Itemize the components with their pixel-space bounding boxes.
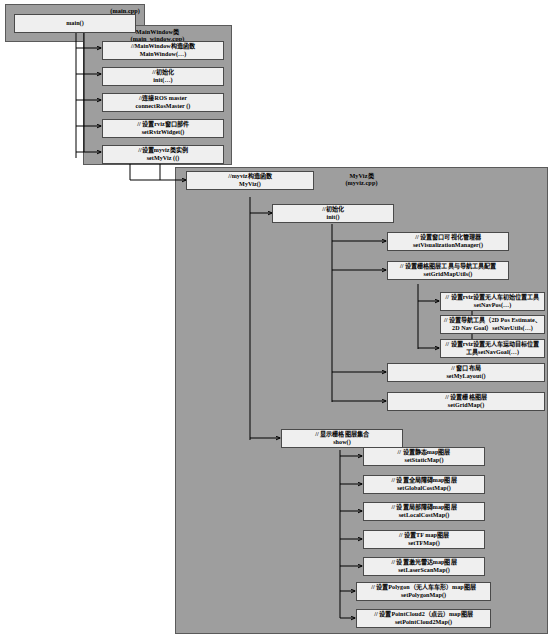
node-set-rviz-widget[interactable]: // 设置rviz窗口部件 setRvizWidget(): [102, 119, 224, 138]
node-set-nav-utils-line1: // 设置导航工具（2D Pos Estimate、: [444, 317, 541, 325]
node-set-my-layout-line2: setMyLayout(): [446, 373, 485, 381]
node-show[interactable]: // 显示栅格图层集合 show(): [281, 429, 403, 448]
node-set-rviz-widget-line1: // 设置rviz窗口部件: [137, 121, 189, 129]
node-mainwindow-init-line2: init(…): [153, 77, 172, 85]
node-set-local-cost-map[interactable]: // 设置局部障碍map图层 setLocalCostMap(): [363, 502, 485, 521]
node-set-my-layout[interactable]: // 窗口布局 setMyLayout(): [387, 363, 545, 382]
node-set-nav-utils-line2: 2D Nav Goal）setNavUtils(…): [452, 325, 533, 333]
node-myviz-init[interactable]: //初始化 init(): [272, 204, 394, 223]
node-set-gridmap-utils-line2: setGridMapUtils(): [424, 271, 473, 279]
node-set-global-cost-map-line2: setGlobalCostMap(): [397, 485, 451, 493]
node-show-line2: show(): [333, 439, 351, 447]
node-set-visualization-manager-line2: setVisualizationManager(): [413, 242, 483, 250]
node-set-nav-goal-line1: // 设置rviz设置无人车运动目标位置: [445, 341, 539, 349]
node-set-static-map-line1: // 设置静态map图层: [397, 449, 450, 457]
node-set-gridmap-line1: // 设置栅格图层: [445, 394, 486, 402]
node-set-laser-scan-map-line1: // 设置激光雷达map图层: [391, 559, 456, 567]
node-set-pointcloud2-map[interactable]: // 设置PointCloud2（点云）map图层 setPointCloud2…: [356, 609, 491, 628]
node-mainwindow-init[interactable]: //初始化 init(…): [102, 67, 224, 86]
node-set-global-cost-map-line1: // 设置全局障碍map图层: [391, 477, 456, 485]
node-set-nav-pos-line2: setNavPos(…): [474, 302, 512, 310]
node-set-tf-map[interactable]: // 设置TF map图层 setTFMap(): [363, 530, 485, 549]
node-set-laser-scan-map[interactable]: // 设置激光雷达map图层 setLaserScanMap(): [363, 557, 485, 576]
node-set-gridmap-line2: setGridMap(): [448, 402, 484, 410]
node-set-local-cost-map-line1: // 设置局部障碍map图层: [391, 504, 456, 512]
node-myviz-constructor[interactable]: //myviz构造函数 MyViz(): [186, 171, 314, 190]
container-mainwindow-title-text: MainWindow类: [136, 28, 179, 35]
node-myviz-constructor-line2: MyViz(): [239, 181, 261, 189]
node-set-my-layout-line1: // 窗口布局: [451, 365, 480, 373]
container-main-cpp-title-text: (main.cpp): [110, 7, 140, 14]
node-set-tf-map-line2: setTFMap(): [408, 540, 440, 548]
node-set-myviz[interactable]: //设置myviz类实例 setMyViz ((): [102, 145, 224, 164]
node-connect-ros-master[interactable]: //连接ROS master connectRosMaster (): [102, 93, 224, 112]
node-mainwindow-constructor[interactable]: //MainWindow构造函数 MainWindow(…): [102, 41, 224, 60]
node-set-static-map-line2: setStaticMap(): [405, 457, 444, 465]
flowchart-canvas: (main.cpp) MainWindow类 (main_window.cpp)…: [0, 0, 555, 642]
node-connect-ros-master-line2: connectRosMaster (): [136, 103, 191, 111]
node-myviz-init-line2: init(): [326, 214, 339, 222]
node-show-line1: // 显示栅格图层集合: [315, 431, 368, 439]
node-set-tf-map-line1: // 设置TF map图层: [399, 532, 449, 540]
node-set-nav-utils[interactable]: // 设置导航工具（2D Pos Estimate、 2D Nav Goal）s…: [440, 315, 545, 334]
node-set-myviz-line2: setMyViz ((): [147, 155, 180, 163]
node-set-rviz-widget-line2: setRvizWidget(): [142, 129, 185, 137]
node-set-local-cost-map-line2: setLocalCostMap(): [399, 512, 450, 520]
node-mainwindow-constructor-line2: MainWindow(…): [140, 51, 187, 59]
node-set-polygon-map-line2: setPolygonMap(): [401, 592, 446, 600]
node-myviz-constructor-line1: //myviz构造函数: [228, 173, 272, 181]
node-set-polygon-map[interactable]: // 设置Polygon（无人车车形）map图层 setPolygonMap(): [356, 582, 491, 601]
node-set-nav-pos[interactable]: // 设置rviz设置无人车初始位置工具 setNavPos(…): [440, 292, 545, 311]
node-set-visualization-manager[interactable]: // 设置窗口可视化管理器 setVisualizationManager(): [387, 232, 509, 251]
node-set-visualization-manager-line1: // 设置窗口可视化管理器: [415, 234, 481, 242]
container-myviz-title-text: MyViz类: [349, 172, 373, 179]
node-set-nav-goal-line2: 工具setNavGoal(…): [466, 349, 519, 357]
node-set-pointcloud2-map-line1: // 设置PointCloud2（点云）map图层: [374, 611, 473, 619]
node-set-gridmap-utils[interactable]: // 设置栅格图层工具与导航工具配置 setGridMapUtils(): [387, 261, 509, 280]
node-mainwindow-init-line1: //初始化: [152, 69, 174, 77]
node-set-nav-pos-line1: // 设置rviz设置无人车初始位置工具: [445, 294, 539, 302]
node-myviz-init-line1: //初始化: [322, 206, 344, 214]
node-main-function[interactable]: main(): [14, 14, 136, 33]
node-set-gridmap-utils-line1: // 设置栅格图层工具与导航工具配置: [400, 263, 496, 271]
node-set-global-cost-map[interactable]: // 设置全局障碍map图层 setGlobalCostMap(): [363, 475, 485, 494]
node-set-pointcloud2-map-line2: setPointCloud2Map(): [395, 619, 452, 627]
node-set-laser-scan-map-line2: setLaserScanMap(): [398, 567, 450, 575]
node-mainwindow-constructor-line1: //MainWindow构造函数: [131, 43, 195, 51]
node-connect-ros-master-line1: //连接ROS master: [139, 95, 187, 103]
node-set-myviz-line1: //设置myviz类实例: [138, 147, 188, 155]
node-set-nav-goal[interactable]: // 设置rviz设置无人车运动目标位置 工具setNavGoal(…): [440, 339, 545, 358]
node-set-gridmap[interactable]: // 设置栅格图层 setGridMap(): [387, 392, 545, 411]
node-main-function-label: main(): [66, 20, 84, 28]
node-set-polygon-map-line1: // 设置Polygon（无人车车形）map图层: [371, 584, 476, 592]
node-set-static-map[interactable]: // 设置静态map图层 setStaticMap(): [363, 447, 485, 466]
